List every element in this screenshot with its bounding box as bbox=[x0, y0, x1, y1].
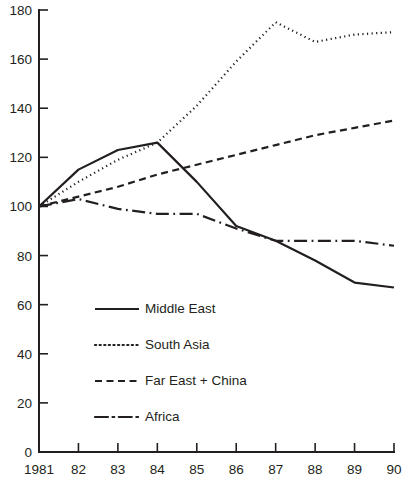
series-line-africa bbox=[39, 199, 394, 246]
x-tick-label: 84 bbox=[150, 462, 166, 477]
legend-label: Middle East bbox=[145, 301, 216, 316]
y-tick-label: 0 bbox=[24, 445, 32, 460]
x-axis-ticks: 1981828384858687888990 bbox=[24, 443, 402, 477]
series-line-south-asia bbox=[39, 22, 394, 206]
legend-label: Africa bbox=[145, 409, 180, 424]
x-tick-label: 83 bbox=[110, 462, 125, 477]
y-tick-label: 100 bbox=[9, 199, 32, 214]
x-tick-label: 85 bbox=[189, 462, 204, 477]
legend-item-africa[interactable]: Africa bbox=[95, 409, 180, 424]
x-tick-label: 86 bbox=[229, 462, 244, 477]
legend-label: South Asia bbox=[145, 337, 210, 352]
legend-item-middle-east[interactable]: Middle East bbox=[95, 301, 216, 316]
chart-legend: Middle EastSouth AsiaFar East + ChinaAfr… bbox=[95, 301, 247, 424]
legend-item-south-asia[interactable]: South Asia bbox=[95, 337, 210, 352]
y-tick-label: 140 bbox=[9, 101, 32, 116]
x-tick-label: 90 bbox=[386, 462, 401, 477]
series-lines bbox=[39, 22, 394, 287]
y-axis-ticks: 020406080100120140160180 bbox=[9, 3, 48, 460]
y-tick-label: 180 bbox=[9, 3, 32, 18]
y-tick-label: 80 bbox=[17, 249, 32, 264]
legend-label: Far East + China bbox=[145, 373, 247, 388]
series-line-middle-east bbox=[39, 143, 394, 288]
y-tick-label: 40 bbox=[17, 347, 32, 362]
x-tick-label: 87 bbox=[268, 462, 283, 477]
x-tick-label: 82 bbox=[71, 462, 86, 477]
line-chart: 020406080100120140160180 198182838485868… bbox=[0, 0, 406, 493]
y-tick-label: 20 bbox=[17, 396, 32, 411]
x-tick-label: 1981 bbox=[24, 462, 54, 477]
y-tick-label: 120 bbox=[9, 150, 32, 165]
legend-item-far-east-china[interactable]: Far East + China bbox=[95, 373, 247, 388]
x-tick-label: 89 bbox=[347, 462, 362, 477]
chart-canvas: 020406080100120140160180 198182838485868… bbox=[0, 0, 406, 493]
y-tick-label: 60 bbox=[17, 298, 32, 313]
x-tick-label: 88 bbox=[308, 462, 323, 477]
y-tick-label: 160 bbox=[9, 52, 32, 67]
